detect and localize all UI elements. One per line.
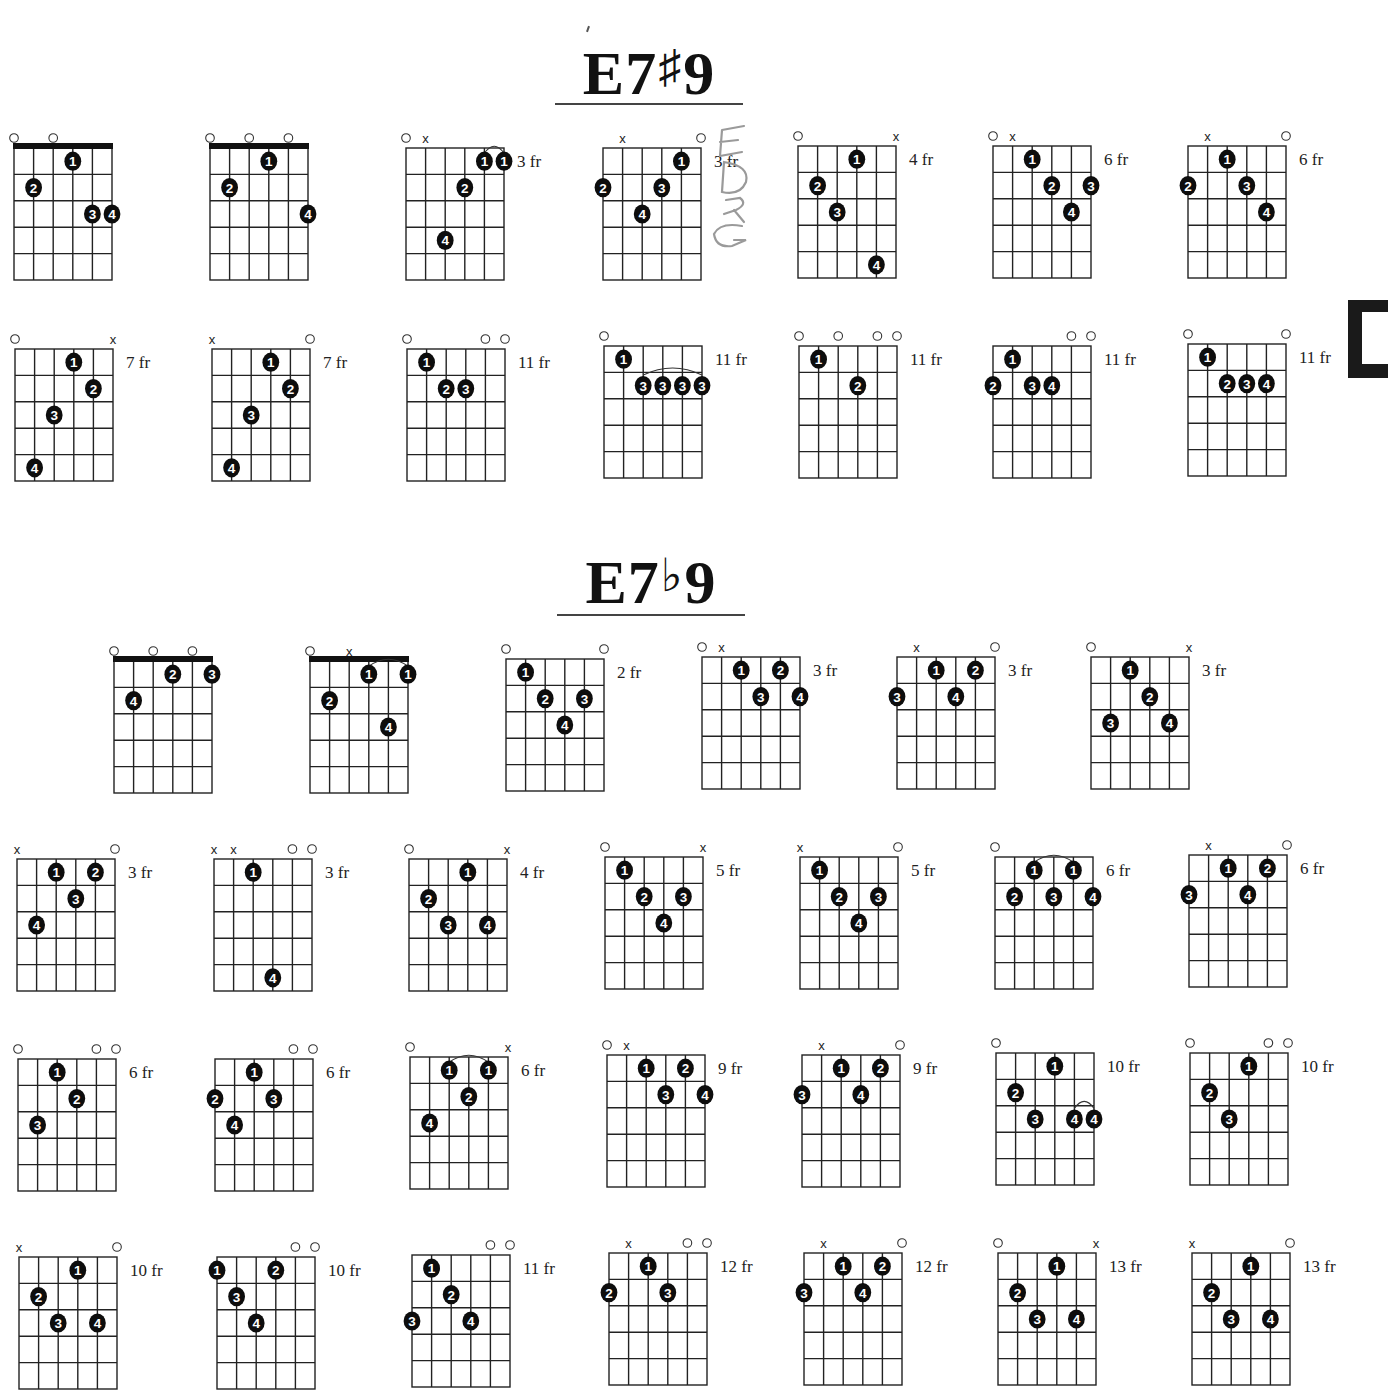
finger-dot: 3 (659, 1283, 676, 1302)
fret-position-label: 6 fr (129, 1063, 153, 1083)
fret-position-label: 5 fr (716, 861, 740, 881)
svg-text:3: 3 (679, 379, 687, 394)
svg-text:2: 2 (92, 865, 100, 880)
svg-text:3: 3 (1087, 179, 1095, 194)
chord-diagram: x12346 fr (1189, 839, 1339, 1009)
svg-text:1: 1 (250, 1065, 258, 1080)
open-string-icon (703, 1239, 712, 1248)
svg-text:4: 4 (130, 694, 138, 709)
svg-text:2: 2 (442, 382, 450, 397)
chord-diagram: x12343 fr (17, 843, 167, 1013)
svg-text:4: 4 (385, 720, 393, 735)
svg-text:2: 2 (877, 1061, 885, 1076)
svg-text:2: 2 (989, 379, 997, 394)
finger-dot: 3 (67, 889, 84, 908)
svg-text:2: 2 (599, 181, 607, 196)
title-extension: 9 (685, 548, 717, 616)
svg-text:1: 1 (1009, 352, 1017, 367)
finger-dot: 2 (1259, 859, 1276, 878)
finger-dot: 4 (1043, 376, 1060, 395)
finger-dot: 2 (267, 1261, 284, 1280)
finger-dot: 1 (441, 1061, 458, 1080)
svg-text:1: 1 (500, 154, 508, 169)
svg-text:1: 1 (52, 865, 60, 880)
svg-text:4: 4 (269, 971, 277, 986)
finger-dot: 3 (50, 1313, 67, 1332)
finger-dot: 2 (460, 1087, 477, 1106)
svg-text:2: 2 (1012, 1086, 1020, 1101)
open-string-icon (683, 1239, 692, 1248)
finger-dot: 3 (1102, 713, 1119, 732)
fret-position-label: 11 fr (518, 353, 550, 373)
finger-dot: 3 (1181, 885, 1198, 904)
muted-string-icon: x (893, 129, 900, 144)
svg-text:2: 2 (640, 890, 648, 905)
finger-dot: 4 (556, 715, 573, 734)
finger-dot: 4 (697, 1085, 714, 1104)
tie-arc (1074, 1101, 1094, 1108)
finger-dot: 4 (854, 1283, 871, 1302)
svg-text:4: 4 (231, 1118, 239, 1133)
svg-text:2: 2 (682, 1061, 690, 1076)
finger-dot: 3 (653, 178, 670, 197)
muted-string-icon: x (625, 1236, 632, 1251)
svg-text:1: 1 (69, 154, 77, 169)
fret-position-label: 6 fr (1300, 859, 1324, 879)
finger-dot: 2 (1180, 176, 1197, 195)
open-string-icon (600, 332, 609, 341)
finger-dot: 3 (46, 405, 63, 424)
svg-text:3: 3 (1028, 379, 1036, 394)
svg-text:4: 4 (796, 690, 804, 705)
svg-text:1: 1 (481, 154, 489, 169)
finger-dot: 4 (89, 1313, 106, 1332)
muted-string-icon: x (818, 1038, 825, 1053)
fret-position-label: 3 fr (325, 863, 349, 883)
fret-position-label: 3 fr (517, 152, 541, 172)
svg-text:1: 1 (423, 355, 431, 370)
finger-dot: 3 (889, 687, 906, 706)
svg-text:1: 1 (1051, 1059, 1059, 1074)
finger-dot: 3 (265, 1089, 282, 1108)
open-string-icon (1282, 132, 1291, 141)
title-underline (557, 614, 745, 616)
open-string-icon (1283, 841, 1292, 850)
finger-dot: 1 (1046, 1057, 1063, 1076)
fret-position-label: 4 fr (909, 150, 933, 170)
svg-text:1: 1 (737, 663, 745, 678)
svg-text:2: 2 (326, 694, 334, 709)
finger-dot: 3 (1045, 887, 1062, 906)
finger-dot: 1 (673, 152, 690, 171)
finger-dot: 2 (831, 887, 848, 906)
svg-text:1: 1 (932, 663, 940, 678)
finger-dot: 3 (1027, 1109, 1044, 1128)
open-string-icon (994, 1239, 1003, 1248)
open-string-icon (1284, 1039, 1293, 1048)
finger-dot: 2 (1219, 374, 1236, 393)
finger-dot: 1 (260, 152, 277, 171)
open-string-icon (402, 134, 411, 143)
fret-position-label: 11 fr (1104, 350, 1136, 370)
title-accidental: ♯ (658, 41, 682, 92)
svg-text:2: 2 (1011, 890, 1019, 905)
finger-dot: 1 (400, 665, 417, 684)
svg-text:3: 3 (1050, 890, 1058, 905)
chord-diagram: x123410 fr (19, 1241, 169, 1394)
finger-dot: 1 (833, 1059, 850, 1078)
title-underline (555, 103, 743, 105)
finger-dot: 1 (209, 1261, 226, 1280)
finger-dot: 1 (928, 661, 945, 680)
svg-text:4: 4 (441, 233, 449, 248)
chord-diagram: x11246 fr (410, 1041, 560, 1211)
open-string-icon (311, 1243, 320, 1252)
chord-diagram: 1236 fr (18, 1043, 168, 1213)
svg-text:1: 1 (620, 352, 628, 367)
svg-text:2: 2 (1208, 1286, 1216, 1301)
finger-dot: 1 (1004, 350, 1021, 369)
fret-position-label: 11 fr (523, 1259, 555, 1279)
finger-dot: 1 (459, 863, 476, 882)
svg-text:4: 4 (1068, 205, 1076, 220)
open-string-icon (1282, 330, 1291, 339)
open-string-icon (1264, 1039, 1273, 1048)
open-string-icon (601, 843, 610, 852)
open-string-icon (698, 643, 707, 652)
